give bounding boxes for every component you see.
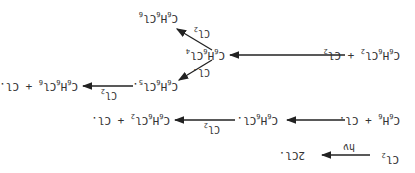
formula-c6h6cl2-plus-cl: C6H6Cl2 + Cl.: [91, 110, 170, 126]
formula-c6h6cl5-radical: C6H6Cl5.: [132, 76, 178, 92]
formula-c6h6cl6-plus-cl: C6H6Cl6 + Cl.: [0, 76, 78, 92]
formula-c6h6cl-radical: C6H6Cl.: [236, 110, 278, 126]
formula-2cl: 2Cl.: [279, 149, 306, 161]
formula-c6h6-plus-cl: C6H6 + Cl.: [339, 110, 400, 126]
reagent-cl2-step2: Cl2: [204, 119, 220, 135]
reagent-cl-radical-branch-b: Cl.: [192, 67, 210, 78]
formula-cl2: Cl2: [382, 149, 399, 165]
reagent-cl2-branch-a: Cl2: [194, 23, 210, 39]
formula-c6h6cl6-a: C6H6Cl6: [139, 8, 178, 24]
reaction-diagram: Cl2 hν 2Cl. C6H6 + Cl. C6H6Cl. Cl2 C6H6C…: [0, 0, 415, 173]
condition-hv: hν: [343, 142, 355, 153]
formula-c6h6cl2-plus-cl2: C6H6Cl2 + Cl2: [324, 45, 401, 61]
reagent-cl2-branch-b2: Cl2: [101, 85, 117, 101]
formula-c6h6cl4: C6H6Cl4: [186, 45, 225, 61]
